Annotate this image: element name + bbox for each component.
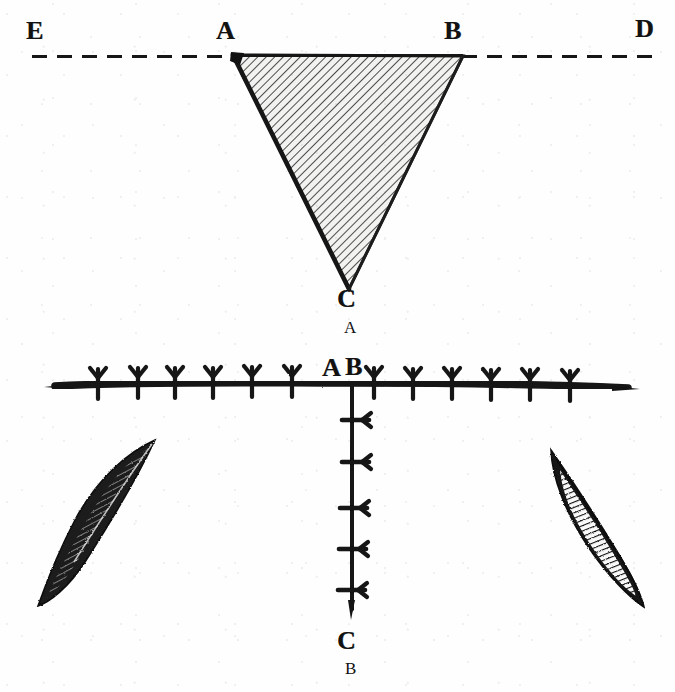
figure-b-label-a: A xyxy=(322,355,341,381)
diagram-page: E A B D C A A B C B xyxy=(0,0,675,692)
figure-b-label-b: B xyxy=(345,354,363,380)
figure-b-label-c: C xyxy=(337,628,356,654)
figure-a-label-a: A xyxy=(216,18,235,44)
figure-a-label-d: D xyxy=(635,16,654,42)
plate-canvas xyxy=(0,0,675,692)
figure-a-caption: A xyxy=(344,319,356,336)
figure-a-label-e: E xyxy=(26,18,44,44)
triangle-top-edge xyxy=(233,55,463,56)
figure-a-label-c: C xyxy=(337,286,356,312)
figure-a-label-b: B xyxy=(444,18,462,44)
figure-b-caption: B xyxy=(345,660,356,677)
